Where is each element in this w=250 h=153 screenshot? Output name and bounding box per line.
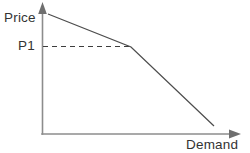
y-axis-label: Price [4, 11, 36, 25]
kinked-demand-curve-diagram: Price P1 Demand [0, 0, 250, 153]
demand-curve-line [48, 14, 214, 126]
x-axis-label: Demand [186, 138, 238, 152]
y-axis-arrow-icon [38, 2, 47, 14]
price-level-label-p1: P1 [18, 39, 35, 53]
diagram-canvas [0, 0, 250, 153]
